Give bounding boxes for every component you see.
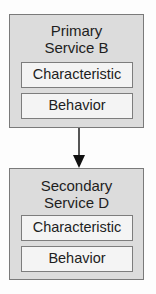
primary-service-title-line2: Service B: [10, 39, 143, 56]
secondary-characteristic-box: Characteristic: [21, 215, 133, 241]
primary-service-box: Primary Service B Characteristic Behavio…: [9, 14, 144, 128]
primary-service-title-line1: Primary: [10, 22, 143, 39]
primary-characteristic-box: Characteristic: [21, 62, 133, 88]
secondary-service-title-line1: Secondary: [10, 177, 143, 194]
primary-service-title: Primary Service B: [10, 22, 143, 56]
secondary-behavior-box: Behavior: [21, 246, 133, 272]
connector-line: [78, 128, 80, 156]
secondary-service-box: Secondary Service D Characteristic Behav…: [9, 168, 144, 280]
arrow-down-icon: [73, 155, 85, 168]
secondary-service-title-line2: Service D: [10, 194, 143, 211]
primary-behavior-box: Behavior: [21, 93, 133, 119]
secondary-service-title: Secondary Service D: [10, 177, 143, 211]
